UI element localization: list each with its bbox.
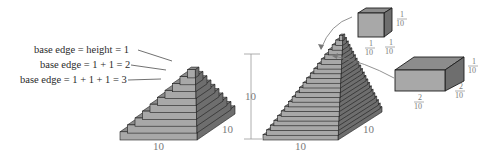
svg-text:1: 1: [369, 39, 373, 48]
svg-text:2: 2: [459, 82, 463, 91]
svg-text:10: 10: [414, 102, 422, 111]
svg-text:10: 10: [385, 47, 393, 56]
leader-line-2: [131, 65, 166, 70]
small-cube-height-fraction: 1 10: [396, 10, 407, 28]
svg-text:10: 10: [365, 48, 373, 57]
fine-base-depth-label: 10: [363, 123, 375, 135]
cube-arrow-head: [318, 44, 324, 50]
height-label: 10: [245, 90, 257, 102]
large-slab: [395, 57, 464, 91]
label-layer-3: base edge = 1 + 1 + 1 = 3: [20, 74, 127, 85]
pyramid-volume-diagram: base edge = height = 1 base edge = 1 + 1…: [0, 0, 496, 159]
step-base-depth-label: 10: [222, 123, 234, 135]
svg-text:10: 10: [468, 66, 476, 75]
slab-width-fraction: 2 10: [414, 93, 424, 111]
svg-text:1: 1: [472, 57, 476, 66]
svg-text:1: 1: [400, 10, 404, 19]
step-labels: base edge = height = 1 base edge = 1 + 1…: [20, 44, 172, 85]
fine-base-width-label: 10: [295, 140, 307, 152]
small-cube-width-fraction: 1 10: [365, 39, 375, 57]
label-layer-1: base edge = height = 1: [34, 44, 129, 55]
svg-text:2: 2: [418, 93, 422, 102]
step-pyramid: [120, 67, 235, 140]
leader-line-1: [138, 50, 172, 61]
small-cube: [358, 8, 392, 37]
step-base-width-label: 10: [153, 140, 165, 152]
svg-text:10: 10: [455, 91, 463, 100]
svg-text:1: 1: [389, 38, 393, 47]
svg-text:10: 10: [396, 19, 404, 28]
slab-height-fraction: 1 10: [468, 57, 478, 75]
label-layer-2: base edge = 1 + 1 = 2: [40, 59, 130, 70]
leader-line-3: [128, 79, 161, 80]
small-cube-depth-fraction: 1 10: [385, 38, 395, 56]
